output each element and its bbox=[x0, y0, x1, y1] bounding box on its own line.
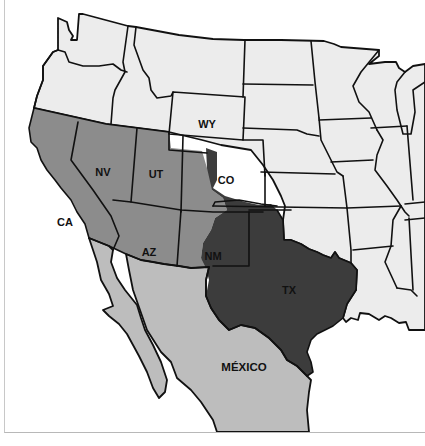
us-southwest-map: WY CA NV UT CO AZ NM TX MÉXICO bbox=[5, 0, 425, 432]
label-nm: NM bbox=[204, 250, 221, 262]
label-co: CO bbox=[218, 174, 235, 186]
label-ca: CA bbox=[57, 216, 73, 228]
label-tx: TX bbox=[282, 284, 297, 296]
label-mexico: MÉXICO bbox=[221, 361, 266, 373]
label-wy: WY bbox=[198, 118, 216, 130]
label-ut: UT bbox=[149, 168, 164, 180]
label-az: AZ bbox=[142, 246, 157, 258]
map-frame: WY CA NV UT CO AZ NM TX MÉXICO bbox=[4, 0, 425, 433]
label-nv: NV bbox=[95, 166, 111, 178]
